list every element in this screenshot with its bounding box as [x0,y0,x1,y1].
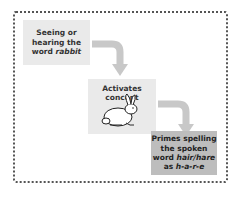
rabbit-drawing-icon [100,93,142,129]
step-emphasis: h-a-r-e [176,162,205,171]
step-text: as [164,162,176,171]
step-emphasis: rabbit [56,47,82,56]
step-box-seeing: Seeing or hearing the word rabbit [23,20,90,65]
step-emphasis: hair/hare [177,153,216,162]
arrow-icon [92,40,132,78]
step-box-primes: Primes spelling the spoken word hair/har… [151,131,217,175]
